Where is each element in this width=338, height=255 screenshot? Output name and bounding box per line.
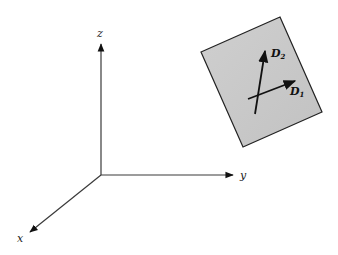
y-axis-label: y (239, 169, 247, 182)
diagram-canvas: z y x D1 D2 (0, 0, 338, 255)
x-axis (30, 175, 101, 232)
diagram-svg: z y x D1 D2 (0, 0, 338, 255)
plane (201, 17, 322, 147)
z-axis-label: z (96, 27, 103, 40)
x-axis-label: x (17, 232, 24, 245)
